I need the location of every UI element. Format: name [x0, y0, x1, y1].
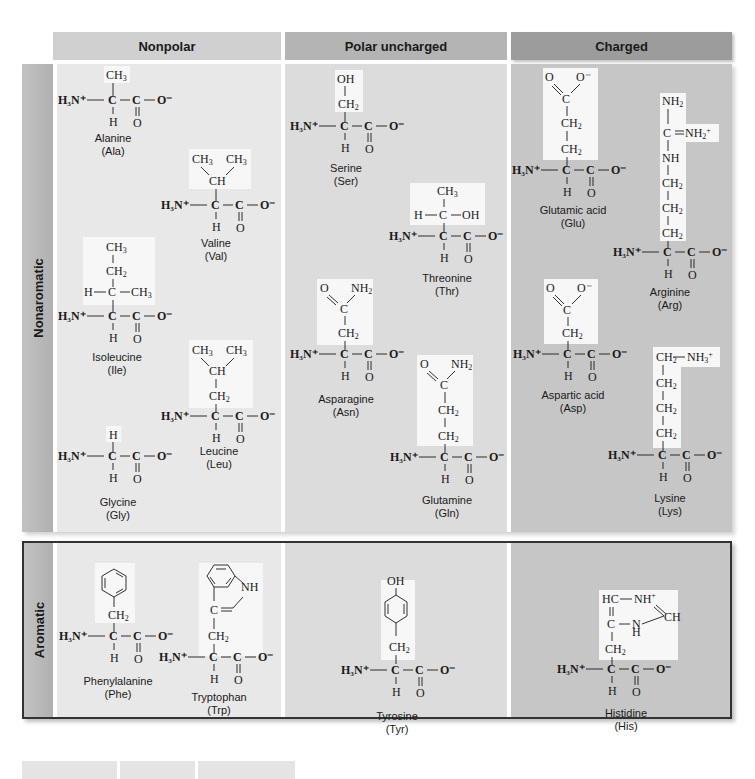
svg-text:OH: OH [337, 72, 355, 86]
svg-text:CH: CH [209, 364, 226, 378]
svg-text:C: C [340, 302, 348, 316]
svg-text:H: H [414, 208, 423, 222]
svg-text:(His): (His) [614, 720, 637, 732]
svg-text:(Asp): (Asp) [560, 402, 586, 414]
svg-text:(Gln): (Gln) [435, 507, 459, 519]
svg-text:O⁻: O⁻ [576, 70, 591, 84]
svg-text:(Tyr): (Tyr) [386, 723, 409, 735]
molecule-structures: H₃N⁺ C C O⁻ H O CH3 Alanine (Ala) CH3 CH… [0, 0, 755, 779]
amino-acid-serine: OH CH2 Serine (Ser) [290, 70, 404, 187]
svg-text:H: H [632, 625, 641, 639]
amino-acid-glutamine: O NH2 C CH2 CH2 Glutamine (Gln) [390, 355, 504, 519]
svg-text:Tyrosine: Tyrosine [376, 710, 418, 722]
svg-text:(Gly): (Gly) [106, 509, 130, 521]
svg-text:Alanine: Alanine [95, 132, 132, 144]
svg-text:(Ser): (Ser) [334, 175, 358, 187]
svg-text:Aspartic acid: Aspartic acid [542, 389, 605, 401]
amino-acid-arginine: NH2 C NH2+ NH CH2 CH2 CH2 Arginine (Arg) [613, 93, 727, 311]
svg-text:Threonine: Threonine [422, 272, 472, 284]
svg-text:NH: NH [241, 580, 259, 594]
svg-text:(Asn): (Asn) [333, 406, 359, 418]
amino-acid-glutamic-acid: O O⁻ C CH2 CH2 Glutamic acid (Glu) [512, 68, 626, 229]
svg-text:OH: OH [462, 208, 480, 222]
svg-text:(Ile): (Ile) [108, 364, 127, 376]
svg-text:CH: CH [209, 174, 226, 188]
svg-text:Glutamine: Glutamine [422, 494, 472, 506]
svg-text:H: H [84, 285, 93, 299]
amino-acid-lysine: CH2 NH3+ CH2 CH2 CH2 Lysine (Lys) [608, 347, 722, 517]
amino-acid-phenylalanine: CH2 Phenylalanine (Phe) [59, 563, 173, 700]
svg-text:Lysine: Lysine [654, 492, 685, 504]
amino-acid-tyrosine: OH CH2 Tyrosine (Tyr) [341, 574, 455, 735]
svg-text:Tryptophan: Tryptophan [191, 691, 246, 703]
amino-acid-aspartic-acid: O O⁻ C CH2 Aspartic acid (Asp) [513, 279, 627, 414]
svg-text:O: O [420, 357, 429, 371]
svg-text:O⁻: O⁻ [577, 281, 592, 295]
svg-text:NH: NH [662, 151, 680, 165]
svg-text:Asparagine: Asparagine [318, 393, 374, 405]
svg-text:C: C [108, 285, 116, 299]
svg-text:(Lys): (Lys) [658, 505, 682, 517]
svg-text:Phenylalanine: Phenylalanine [83, 675, 152, 687]
svg-text:C: C [439, 208, 447, 222]
svg-text:HC: HC [602, 592, 619, 606]
svg-text:H: H [109, 428, 118, 442]
svg-text:(Glu): (Glu) [561, 217, 585, 229]
svg-text:(Leu): (Leu) [206, 458, 232, 470]
svg-text:Glutamic acid: Glutamic acid [540, 204, 607, 216]
amino-acid-isoleucine: CH3 CH2 H C CH3 Isoleucine (Ile) [58, 237, 172, 376]
svg-text:(Phe): (Phe) [105, 688, 132, 700]
svg-text:OH: OH [387, 574, 405, 588]
svg-text:(Thr): (Thr) [435, 285, 459, 297]
amino-acid-leucine: CH3 CH3 CH CH2 Leucine (Leu) [161, 340, 275, 470]
svg-text:(Trp): (Trp) [207, 704, 230, 716]
amino-acid-asparagine: O NH2 C CH2 Asparagine (Asn) [290, 279, 404, 418]
amino-acid-valine: CH3 CH3 CH Valine (Val) [161, 149, 275, 262]
amino-acid-threonine: CH3 H C OH Threonine (Thr) [389, 183, 503, 297]
svg-text:O: O [546, 281, 555, 295]
svg-text:C: C [607, 617, 615, 631]
svg-text:O: O [320, 281, 329, 295]
svg-text:C: C [210, 603, 218, 617]
svg-text:Serine: Serine [330, 162, 362, 174]
svg-text:C: C [562, 92, 570, 106]
svg-text:(Arg): (Arg) [658, 299, 682, 311]
svg-text:C: C [563, 303, 571, 317]
svg-text:C: C [663, 126, 671, 140]
svg-text:Valine: Valine [201, 237, 231, 249]
svg-text:(Ala): (Ala) [101, 145, 124, 157]
svg-text:Histidine: Histidine [605, 707, 647, 719]
amino-acid-glycine: H Glycine (Gly) [58, 426, 172, 521]
amino-acid-alanine: CH3 Alanine (Ala) [58, 66, 172, 157]
svg-text:Arginine: Arginine [650, 286, 690, 298]
svg-text:Isoleucine: Isoleucine [92, 351, 142, 363]
svg-text:(Val): (Val) [205, 250, 227, 262]
svg-text:C: C [440, 378, 448, 392]
svg-text:Leucine: Leucine [200, 445, 239, 457]
svg-text:CH: CH [664, 610, 681, 624]
amino-acid-histidine: HC NH+ CH C N H CH2 Histidine (His) [557, 590, 681, 732]
amino-acid-tryptophan: NH C CH2 Tryptophan (Trp) [159, 563, 273, 716]
svg-text:Glycine: Glycine [100, 496, 137, 508]
svg-text:O: O [545, 70, 554, 84]
